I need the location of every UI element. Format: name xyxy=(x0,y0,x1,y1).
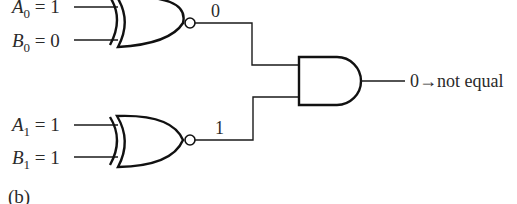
wire-xnor0-to-and xyxy=(195,23,299,65)
and-output-label: 0→not equal xyxy=(410,71,503,91)
comparator-circuit-diagram: A0 = 1 B0 = 0 0 A1 = 1 B1 = 1 1 0→not eq… xyxy=(0,0,517,204)
xnor-gate-1: A1 = 1 B1 = 1 xyxy=(10,114,195,172)
wire-xnor1-to-and xyxy=(195,97,299,140)
and-gate xyxy=(299,57,361,105)
xnor0-body xyxy=(117,0,184,47)
xnor1-body xyxy=(117,116,183,167)
xnor0-output-value: 0 xyxy=(211,1,220,21)
input-label-b1: B1 = 1 xyxy=(12,147,60,172)
xnor-gate-0: A0 = 1 B0 = 0 xyxy=(10,0,195,55)
xnor0-inversion-bubble xyxy=(185,18,195,28)
input-label-a1: A1 = 1 xyxy=(10,114,60,139)
xnor1-inversion-bubble xyxy=(185,135,195,145)
figure-caption: (b) xyxy=(8,186,30,204)
input-label-b0: B0 = 0 xyxy=(12,30,60,55)
and-gate-body xyxy=(299,57,361,105)
input-label-a0: A0 = 1 xyxy=(10,0,60,21)
xnor1-back-curve xyxy=(110,117,117,165)
xnor1-output-value: 1 xyxy=(215,118,224,138)
